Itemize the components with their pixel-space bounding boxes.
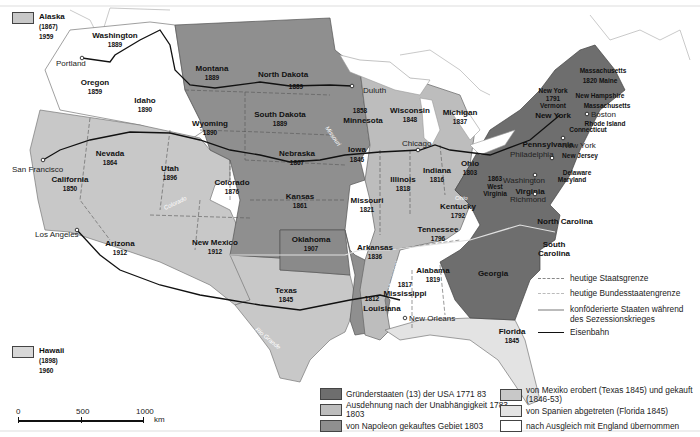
svg-text:New Orleans: New Orleans xyxy=(409,314,455,323)
svg-text:1837: 1837 xyxy=(453,118,468,125)
legend-founding: Gründerstaaten (13) der USA 1771 83 xyxy=(320,388,486,400)
svg-text:Florida: Florida xyxy=(499,327,526,336)
svg-text:Louisiana: Louisiana xyxy=(363,304,401,313)
svg-text:1889: 1889 xyxy=(108,41,123,48)
alaska-inset: Alaska (1867) 1959 xyxy=(12,12,65,42)
hawaii-swatch xyxy=(12,346,34,358)
svg-text:1867: 1867 xyxy=(290,159,305,166)
svg-text:Georgia: Georgia xyxy=(478,269,509,278)
svg-text:Portland: Portland xyxy=(56,59,86,68)
svg-text:Arizona: Arizona xyxy=(105,239,135,248)
svg-text:Wisconsin: Wisconsin xyxy=(390,106,430,115)
legend-england: nach Ausgleich mit England übernommen xyxy=(500,420,679,432)
svg-text:1819: 1819 xyxy=(426,276,441,283)
swatch xyxy=(320,388,342,400)
svg-text:Michigan: Michigan xyxy=(443,108,478,117)
svg-text:Chicago: Chicago xyxy=(402,139,432,148)
svg-text:1912: 1912 xyxy=(208,248,223,255)
svg-text:Utah: Utah xyxy=(161,164,179,173)
legend-railroad: Eisenbahn xyxy=(538,327,609,337)
svg-text:1836: 1836 xyxy=(368,253,383,260)
svg-text:1792: 1792 xyxy=(451,212,466,219)
hawaii-inset: Hawaii (1898) 1960 xyxy=(12,346,64,376)
svg-text:Maryland: Maryland xyxy=(558,176,587,184)
scale-unit: km xyxy=(154,415,165,424)
svg-text:1876: 1876 xyxy=(225,188,240,195)
legend-label: konföderierte Staaten während des Sezess… xyxy=(570,304,698,324)
svg-text:1896: 1896 xyxy=(163,174,178,181)
svg-text:New Jersey: New Jersey xyxy=(562,152,598,160)
svg-text:Vermont: Vermont xyxy=(540,102,567,109)
svg-text:Texas: Texas xyxy=(275,286,298,295)
legend-confederate: konföderierte Staaten während des Sezess… xyxy=(538,304,698,324)
legend-label: heutige Bundesstaatengrenze xyxy=(570,288,680,298)
hawaii-acquired: (1898) xyxy=(39,356,64,366)
svg-text:1890: 1890 xyxy=(138,106,153,113)
svg-text:New York: New York xyxy=(535,111,571,120)
alaska-name: Alaska xyxy=(39,12,65,22)
svg-text:Ohio: Ohio xyxy=(461,159,479,168)
usa-territorial-expansion-map: Colorado Missouri Ohio Mississippi Rio G… xyxy=(0,0,700,437)
legend-mexico: von Mexiko erobert (Texas 1845) und geka… xyxy=(500,386,700,404)
svg-text:New York: New York xyxy=(562,141,597,150)
hawaii-statehood: 1960 xyxy=(39,366,64,376)
svg-text:Iowa: Iowa xyxy=(348,145,366,154)
svg-text:1864: 1864 xyxy=(103,159,118,166)
svg-text:Missouri: Missouri xyxy=(351,196,384,205)
svg-text:1803: 1803 xyxy=(463,169,478,176)
legend-national-border: heutige Staatsgrenze xyxy=(538,273,648,283)
svg-text:1818: 1818 xyxy=(396,185,411,192)
svg-text:Washington: Washington xyxy=(503,176,545,185)
svg-text:1889: 1889 xyxy=(205,74,220,81)
legend-label: heutige Staatsgrenze xyxy=(570,273,648,283)
svg-text:Washington: Washington xyxy=(92,31,138,40)
svg-text:Idaho: Idaho xyxy=(134,96,155,105)
svg-text:1817: 1817 xyxy=(398,281,413,288)
legend-spain: von Spanien abgetreten (Florida 1845) xyxy=(500,405,668,417)
svg-text:Colorado: Colorado xyxy=(214,178,249,187)
svg-text:Illinois: Illinois xyxy=(390,175,416,184)
alaska-acquired: (1867) xyxy=(39,22,65,32)
svg-text:North Dakota: North Dakota xyxy=(258,70,309,79)
svg-text:1889: 1889 xyxy=(289,83,304,90)
scale-bar: 0 500 1000 km xyxy=(16,407,156,427)
svg-text:Kansas: Kansas xyxy=(286,192,315,201)
legend-state-border: heutige Bundesstaatengrenze xyxy=(538,288,680,298)
svg-text:West: West xyxy=(487,183,503,190)
svg-text:1859: 1859 xyxy=(88,88,103,95)
svg-text:New Hampshire: New Hampshire xyxy=(576,92,625,100)
svg-text:Nevada: Nevada xyxy=(96,149,125,158)
river-ohio: Ohio xyxy=(455,195,468,201)
svg-text:1816: 1816 xyxy=(430,176,445,183)
alaska-statehood: 1959 xyxy=(39,32,65,42)
swatch xyxy=(320,404,342,416)
svg-text:1845: 1845 xyxy=(505,337,520,344)
svg-text:1848: 1848 xyxy=(403,116,418,123)
svg-text:1890: 1890 xyxy=(203,129,218,136)
svg-text:Philadelphia: Philadelphia xyxy=(510,150,554,159)
svg-text:Richmond: Richmond xyxy=(510,195,546,204)
svg-text:San Francisco: San Francisco xyxy=(12,165,64,174)
svg-text:Tennessee: Tennessee xyxy=(418,225,459,234)
svg-text:Oregon: Oregon xyxy=(81,78,110,87)
svg-text:South: South xyxy=(543,240,566,249)
svg-text:Montana: Montana xyxy=(196,64,229,73)
scale-tick-500: 500 xyxy=(76,407,89,416)
svg-text:Mississippi: Mississippi xyxy=(383,289,426,298)
svg-text:Delaware: Delaware xyxy=(563,169,592,176)
svg-text:Carolina: Carolina xyxy=(538,249,571,258)
svg-text:New Mexico: New Mexico xyxy=(192,238,238,247)
alaska-swatch xyxy=(12,12,34,24)
svg-text:South Dakota: South Dakota xyxy=(254,110,306,119)
legend-label: Eisenbahn xyxy=(570,327,609,337)
svg-text:Nebraska: Nebraska xyxy=(279,149,316,158)
svg-text:1812: 1812 xyxy=(365,295,380,302)
svg-text:1858: 1858 xyxy=(353,107,368,114)
svg-text:Connecticut: Connecticut xyxy=(569,126,607,133)
svg-text:1850: 1850 xyxy=(63,185,78,192)
svg-text:1846: 1846 xyxy=(350,156,365,163)
svg-text:Boston: Boston xyxy=(591,110,616,119)
svg-text:Minnesota: Minnesota xyxy=(343,116,383,125)
svg-text:Virginia: Virginia xyxy=(483,190,507,198)
svg-text:1796: 1796 xyxy=(431,235,446,242)
